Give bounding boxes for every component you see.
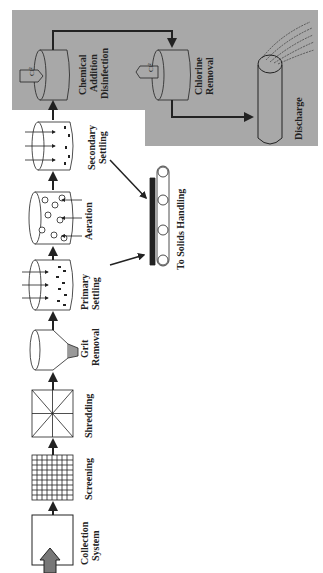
- chlorine-label: ChlorineRemoval: [193, 57, 215, 95]
- screening-icon: [32, 455, 73, 500]
- svg-text:Cl²: Cl²: [147, 63, 155, 72]
- aeration-label: Aeration: [83, 202, 94, 240]
- aeration-icon: [29, 192, 82, 244]
- collection-label: CollectionSystem: [79, 521, 101, 565]
- svg-text:Cl²: Cl²: [28, 67, 36, 76]
- secondary-label: SecondarySettling: [86, 125, 108, 170]
- primary-settling-icon: [22, 260, 73, 310]
- shredding-label: Shredding: [83, 394, 94, 438]
- screening-label: Screening: [83, 458, 94, 500]
- solids-conveyor-icon: [110, 160, 169, 266]
- collection-system-icon: [32, 515, 73, 573]
- treatment-diagram: Cl² Cl² CollectionSystem Screening Shred…: [0, 0, 323, 573]
- chemical-label: ChemicalAdditionDisinfection: [77, 47, 110, 99]
- secondary-settling-icon: [25, 122, 73, 170]
- primary-label: PrimarySettling: [79, 274, 101, 310]
- shredding-icon: [32, 390, 73, 437]
- grit-label: GritRemoval: [79, 328, 101, 366]
- solids-label: To Solids Handling: [175, 189, 186, 270]
- discharge-label: Discharge: [293, 97, 304, 140]
- grit-removal-icon: [30, 330, 78, 370]
